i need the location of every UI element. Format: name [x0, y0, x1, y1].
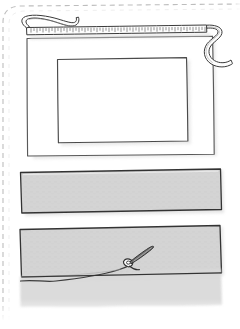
inner-frame — [58, 58, 192, 146]
illustration-canvas — [0, 0, 240, 329]
illustration-page: Sewing step illustration Hand drawn craf… — [0, 0, 240, 329]
right-fade-overlay — [200, 0, 240, 329]
fabric-strip-top — [21, 169, 225, 216]
